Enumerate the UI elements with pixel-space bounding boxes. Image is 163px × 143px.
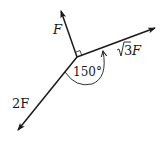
svg-text:F: F <box>131 43 142 58</box>
label-2f: 2F <box>12 96 29 111</box>
label-f: F <box>52 22 63 37</box>
vector-2f <box>18 57 77 130</box>
vector-sqrt3f <box>77 28 155 57</box>
force-diagram: F 3 F 2F 150° <box>0 0 163 143</box>
label-sqrt3f: 3 F <box>117 42 142 58</box>
vector-f <box>61 11 77 57</box>
angle-label: 150° <box>73 65 102 79</box>
